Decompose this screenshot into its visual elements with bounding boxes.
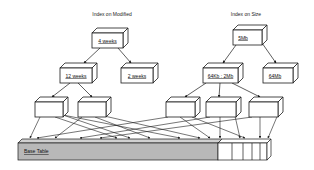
node-12-weeks: 12 weeks (60, 63, 97, 83)
leaf-to-table-arrows (30, 112, 279, 138)
index-diagram: Index on Modified Index on Size Base Tab… (0, 0, 314, 170)
svg-text:2 weeks: 2 weeks (128, 73, 147, 79)
node-5mb: 5Mb (233, 25, 267, 45)
node-64mb: 64Mb (263, 63, 298, 83)
svg-text:12 weeks: 12 weeks (65, 73, 87, 79)
index-size-title: Index on Size (231, 11, 262, 17)
leaf-page-3 (166, 97, 200, 117)
base-table: Base Table (18, 139, 271, 160)
leaf-page-4 (206, 97, 241, 117)
node-2-weeks: 2 weeks (121, 63, 158, 83)
svg-text:4 weeks: 4 weeks (98, 38, 117, 44)
svg-text:64Mb: 64Mb (269, 73, 282, 79)
svg-text:64Kb : 2Mb: 64Kb : 2Mb (208, 73, 234, 79)
base-table-label: Base Table (24, 148, 49, 154)
leaf-page-1 (35, 97, 68, 117)
index-modified-title: Index on Modified (92, 11, 132, 17)
svg-text:5Mb: 5Mb (238, 35, 248, 41)
leaf-page-2 (78, 97, 111, 117)
node-64kb-2mb: 64Kb : 2Mb (203, 63, 243, 83)
leaf-page-5 (249, 97, 283, 117)
node-4-weeks: 4 weeks (92, 28, 128, 48)
